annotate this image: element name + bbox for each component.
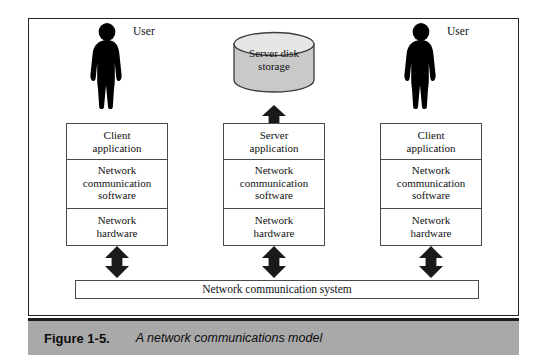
user-silhouette-icon	[85, 23, 129, 109]
stack-cell-line: communication	[83, 177, 151, 189]
stack-cell-line: application	[250, 142, 299, 154]
stack-cell-line: software	[255, 189, 293, 201]
stack-cell-client-application-right[interactable]: Client application	[381, 124, 481, 160]
server-disk-label-line: Server disk	[249, 47, 299, 59]
stack-cell-line: hardware	[411, 227, 452, 239]
double-arrow-vertical-icon	[104, 246, 130, 278]
figure-caption-title: A network communications model	[136, 331, 322, 345]
stack-cell-line: application	[407, 142, 456, 154]
user-label-left: User	[133, 25, 155, 37]
stack-cell-network-hardware-right[interactable]: Network hardware	[381, 209, 481, 245]
protocol-stack-right: Client application Network communication…	[380, 123, 482, 246]
stack-cell-line: Network	[412, 214, 451, 226]
stack-cell-line: Client	[104, 129, 131, 141]
stack-cell-line: hardware	[97, 227, 138, 239]
stack-cell-network-software-right[interactable]: Network communication software	[381, 160, 481, 209]
figure-caption-number: Figure 1-5.	[44, 331, 110, 346]
stack-cell-line: Network	[255, 214, 294, 226]
stack-cell-client-application-left[interactable]: Client application	[67, 124, 167, 160]
column-client-right: User Client application Network communic…	[361, 19, 501, 111]
stack-cell-line: Network	[98, 214, 137, 226]
stack-cell-line: communication	[397, 177, 465, 189]
protocol-stack-server: Server application Network communication…	[223, 123, 325, 246]
figure-caption-bar: Figure 1-5. A network communications mod…	[28, 318, 519, 355]
figure-frame: User Client application Network communic…	[28, 18, 519, 316]
user-node-right: User	[361, 19, 501, 111]
double-arrow-vertical-icon	[261, 246, 287, 278]
stack-cell-network-hardware-left[interactable]: Network hardware	[67, 209, 167, 245]
stack-cell-line: Server	[260, 129, 289, 141]
user-node-left: User	[47, 19, 187, 111]
stack-cell-line: communication	[240, 177, 308, 189]
column-client-left: User Client application Network communic…	[47, 19, 187, 111]
stack-cell-line: Network	[255, 164, 294, 176]
server-disk-label-line: storage	[258, 60, 290, 72]
server-disk-label: Server disk storage	[232, 47, 316, 72]
stack-cell-line: software	[98, 189, 136, 201]
stack-cell-network-hardware-server[interactable]: Network hardware	[224, 209, 324, 245]
stack-cell-network-software-server[interactable]: Network communication software	[224, 160, 324, 209]
stack-cell-line: Client	[418, 129, 445, 141]
stack-cell-line: application	[93, 142, 142, 154]
stack-cell-line: Network	[412, 164, 451, 176]
protocol-stack-left: Client application Network communication…	[66, 123, 168, 246]
user-label-right: User	[447, 25, 469, 37]
server-disk-node: Server disk storage	[204, 19, 344, 111]
user-silhouette-icon	[399, 23, 443, 109]
network-communication-system-bar[interactable]: Network communication system	[75, 280, 479, 299]
column-server: Server disk storage Server application N…	[204, 19, 344, 111]
stack-cell-line: Network	[98, 164, 137, 176]
stack-cell-line: software	[412, 189, 450, 201]
stack-cell-server-application[interactable]: Server application	[224, 124, 324, 160]
stack-cell-line: hardware	[254, 227, 295, 239]
stack-cell-network-software-left[interactable]: Network communication software	[67, 160, 167, 209]
double-arrow-vertical-icon	[418, 246, 444, 278]
